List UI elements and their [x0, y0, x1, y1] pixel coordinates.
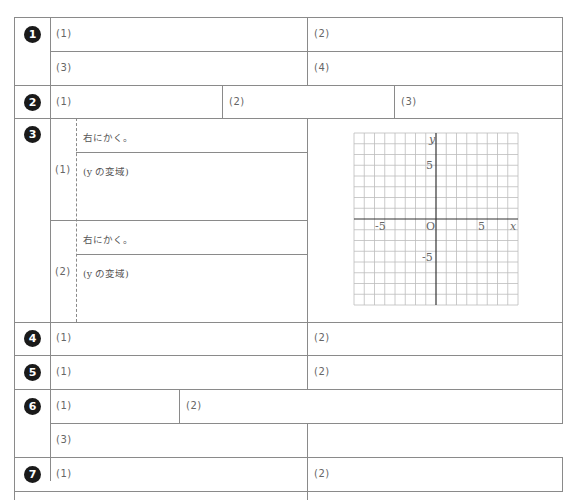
question-number-2: 2 [24, 94, 41, 111]
table-border-right [562, 457, 563, 491]
question-number-1: 1 [24, 26, 41, 43]
coordinate-grid[interactable]: y x 5 -5 -5 O 5 [350, 128, 525, 310]
part-label-3-2: (2) [55, 266, 71, 277]
table-border-top [14, 17, 563, 18]
answer-cell-2-1[interactable]: (1) [56, 96, 72, 107]
divider [76, 152, 307, 153]
origin-label: O [426, 220, 435, 233]
answer-cell-1-3[interactable]: (3) [56, 62, 72, 73]
divider [50, 220, 307, 221]
divider [76, 254, 307, 255]
instruction-text: 右にかく。 [83, 232, 133, 246]
answer-cell-7-1[interactable]: (1) [56, 468, 72, 479]
answer-cell-6-3[interactable]: (3) [56, 434, 72, 445]
table-border-bottom [14, 491, 563, 492]
question-number-7: 7 [24, 466, 41, 483]
x-tick-5: 5 [478, 220, 485, 233]
row-divider [14, 85, 563, 86]
answer-cell-1-2[interactable]: (2) [314, 28, 330, 39]
row-divider [14, 457, 563, 458]
answer-cell-1-1[interactable]: (1) [56, 28, 72, 39]
question-number-3: 3 [24, 126, 41, 143]
row-divider [14, 322, 563, 323]
part-label-3-1: (1) [55, 164, 71, 175]
y-range-field[interactable]: (y の変域) [83, 266, 129, 280]
row-divider [14, 355, 563, 356]
answer-cell-6-2[interactable]: (2) [186, 400, 202, 411]
table-border-right [562, 118, 563, 322]
question-number-5: 5 [24, 364, 41, 381]
answer-cell-2-3[interactable]: (3) [401, 96, 417, 107]
instruction-text: 右にかく。 [83, 130, 133, 144]
divider [307, 423, 308, 500]
divider [307, 118, 308, 322]
answer-cell-6-1[interactable]: (1) [56, 400, 72, 411]
answer-cell-4-1[interactable]: (1) [56, 332, 72, 343]
y-tick-5: 5 [426, 159, 433, 172]
row-divider [14, 389, 563, 390]
answer-cell-1-4[interactable]: (4) [314, 62, 330, 73]
answer-cell-5-1[interactable]: (1) [56, 366, 72, 377]
answer-cell-5-2[interactable]: (2) [314, 366, 330, 377]
answer-cell-2-2[interactable]: (2) [229, 96, 245, 107]
y-tick-neg5: -5 [422, 251, 433, 264]
y-range-field[interactable]: (y の変域) [83, 164, 129, 178]
divider [307, 17, 308, 85]
divider [394, 85, 395, 118]
table-border-right [562, 322, 563, 355]
answer-cell-4-2[interactable]: (2) [314, 332, 330, 343]
divider [179, 389, 180, 423]
x-tick-neg5: -5 [375, 220, 386, 233]
divider [222, 85, 223, 118]
table-border-left [14, 118, 15, 500]
number-column-divider [50, 118, 51, 481]
question-number-6: 6 [24, 398, 41, 415]
x-axis-label: x [510, 220, 517, 233]
question-number-4: 4 [24, 330, 41, 347]
answer-cell-7-2[interactable]: (2) [314, 468, 330, 479]
row-divider [14, 118, 563, 119]
y-axis-label: y [428, 133, 436, 146]
